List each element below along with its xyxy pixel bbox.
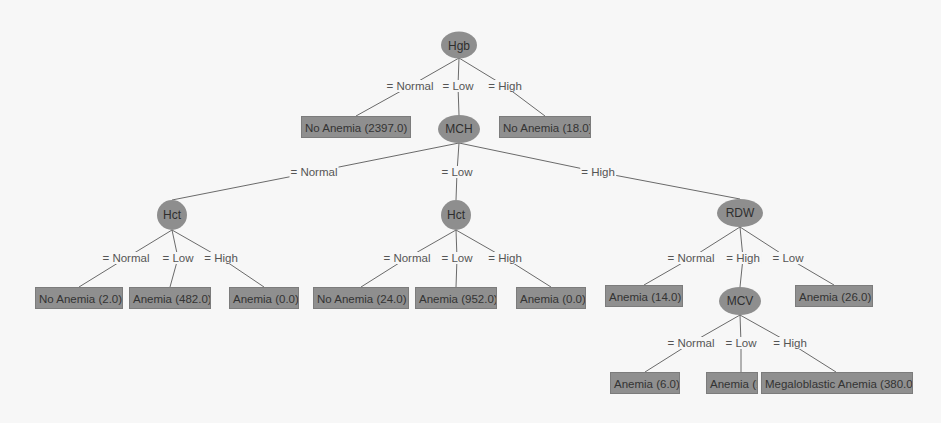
leaf-node: Anemia (952.0) bbox=[415, 287, 497, 309]
tree-node-mch: MCH bbox=[438, 115, 480, 143]
leaf-node: Anemia (6.0) bbox=[610, 372, 680, 394]
branch-label: = Low bbox=[440, 252, 473, 264]
tree-node-hct1: Hct bbox=[157, 200, 187, 230]
tree-node-rdw: RDW bbox=[717, 199, 763, 227]
branch-label: = High bbox=[725, 252, 761, 264]
leaf-node: Anemia (14.0) bbox=[605, 285, 683, 307]
branch-label: = Normal bbox=[383, 252, 432, 264]
branch-label: = Low bbox=[441, 80, 474, 92]
tree-node-hgb: Hgb bbox=[441, 32, 477, 59]
branch-label: = Normal bbox=[102, 252, 151, 264]
branch-label: = Normal bbox=[290, 166, 339, 178]
branch-label: = Low bbox=[724, 337, 757, 349]
branch-label: = High bbox=[487, 80, 523, 92]
leaf-node: Anemia (26.0) bbox=[795, 285, 873, 307]
branch-label: = Normal bbox=[667, 337, 716, 349]
leaf-node: No Anemia (2.0) bbox=[35, 287, 123, 309]
branch-label: = High bbox=[772, 337, 808, 349]
edge-line bbox=[459, 143, 598, 172]
edge-line bbox=[598, 172, 740, 199]
leaf-node: No Anemia (2397.0) bbox=[301, 116, 411, 138]
leaf-node: Anemia (0.0) bbox=[516, 287, 586, 309]
branch-label: = High bbox=[203, 252, 239, 264]
tree-node-hct2: Hct bbox=[441, 200, 471, 230]
leaf-node: Anemia (! bbox=[706, 372, 758, 394]
branch-label: = Low bbox=[771, 252, 804, 264]
branch-label: = Low bbox=[440, 166, 473, 178]
branch-label: = High bbox=[487, 252, 523, 264]
branch-label: = Normal bbox=[386, 80, 435, 92]
branch-label: = High bbox=[580, 166, 616, 178]
branch-label: = Normal bbox=[667, 252, 716, 264]
leaf-node: Megaloblastic Anemia (380.0) bbox=[761, 372, 913, 394]
branch-label: = Low bbox=[161, 252, 194, 264]
leaf-node: Anemia (0.0) bbox=[229, 287, 299, 309]
leaf-node: No Anemia (24.0) bbox=[313, 287, 409, 309]
tree-node-mcv: MCV bbox=[719, 287, 761, 315]
leaf-node: Anemia (482.0) bbox=[129, 287, 211, 309]
leaf-node: No Anemia (18.0) bbox=[499, 116, 591, 138]
